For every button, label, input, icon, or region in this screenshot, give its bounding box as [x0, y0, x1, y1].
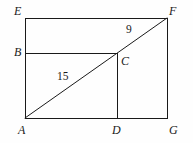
vertex-label-e: E: [14, 5, 21, 17]
measurement-label-cf: 9: [126, 24, 132, 36]
diagonal-AF: [25, 18, 167, 118]
vertex-label-d: D: [112, 124, 121, 136]
vertex-label-b: B: [14, 46, 21, 58]
vertex-label-a: A: [18, 124, 25, 136]
vertex-label-f: F: [169, 5, 176, 17]
vertex-label-c: C: [121, 55, 129, 67]
figure-canvas: [0, 0, 193, 143]
measurement-label-ac: 15: [57, 71, 69, 83]
vertex-label-g: G: [169, 124, 178, 136]
geometry-figure: E F B C A D G 15 9: [0, 0, 193, 143]
